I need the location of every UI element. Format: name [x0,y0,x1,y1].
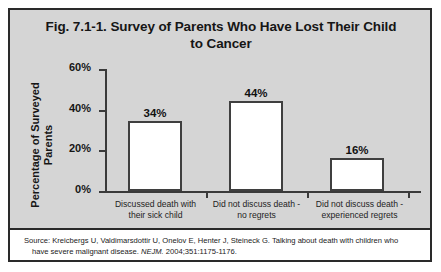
plot-area: 0% 20% 40% 60% 34% 44% 16% [105,60,421,200]
figure-container: Fig. 7.1-1. Survey of Parents Who Have L… [8,8,432,262]
category-label-1-line1: Discussed death with [115,199,196,209]
y-axis-line [105,69,107,193]
category-label-3-line1: Did not discuss death - [316,199,403,209]
source-citation: Source: Kreicbergs U, Valdimarsdottir U,… [24,235,422,257]
chart-panel: Fig. 7.1-1. Survey of Parents Who Have L… [10,10,430,228]
chart-title: Fig. 7.1-1. Survey of Parents Who Have L… [28,18,414,52]
category-label-2: Did not discuss death - no regrets [210,199,303,220]
y-axis-title-line1: Percentage of Surveyed [29,82,41,207]
category-label-1-line2: their sick child [129,210,183,220]
bar-value-2: 44% [244,87,267,99]
y-tick-label-20: 20% [69,142,91,154]
source-line2-suffix: 2004;351:1175-1176. [164,247,237,256]
y-tick-label-60: 60% [69,61,91,73]
y-axis-title-line2: Parents [42,125,54,165]
chart-title-line1: Fig. 7.1-1. Survey of Parents Who Have L… [46,19,397,34]
source-line2: have severe malignant disease. NEJM. 200… [24,246,422,257]
category-label-3: Did not discuss death - experienced regr… [311,199,408,220]
source-line1: Source: Kreicbergs U, Valdimarsdottir U,… [24,236,398,245]
bar-value-3: 16% [345,144,368,156]
source-journal-name: NEJM. [141,247,164,256]
y-tick-0: 0% [99,191,105,193]
category-label-2-line1: Did not discuss death - [213,199,300,209]
y-tick-20: 20% [99,150,105,152]
chart-title-line2: to Cancer [190,36,251,51]
source-box: Source: Kreicbergs U, Valdimarsdottir U,… [10,228,430,260]
category-label-2-line2: no regrets [237,210,276,220]
x-tick-2 [307,193,309,198]
category-label-3-line2: experienced regrets [322,210,398,220]
source-line2-prefix: have severe malignant disease. [32,247,141,256]
bar-no-regrets[interactable]: 44% [229,101,283,191]
x-axis-line [105,191,421,193]
bar-experienced-regrets[interactable]: 16% [330,158,384,191]
x-tick-3 [408,193,410,198]
x-tick-1 [206,193,208,198]
y-tick-label-0: 0% [75,183,91,195]
y-tick-label-40: 40% [69,102,91,114]
bar-discussed-death[interactable]: 34% [128,121,182,191]
y-tick-40: 40% [99,110,105,112]
bar-value-1: 34% [143,107,166,119]
category-label-1: Discussed death with their sick child [109,199,202,220]
y-tick-60: 60% [99,69,105,71]
y-axis-title: Percentage of Surveyed Parents [29,70,55,220]
